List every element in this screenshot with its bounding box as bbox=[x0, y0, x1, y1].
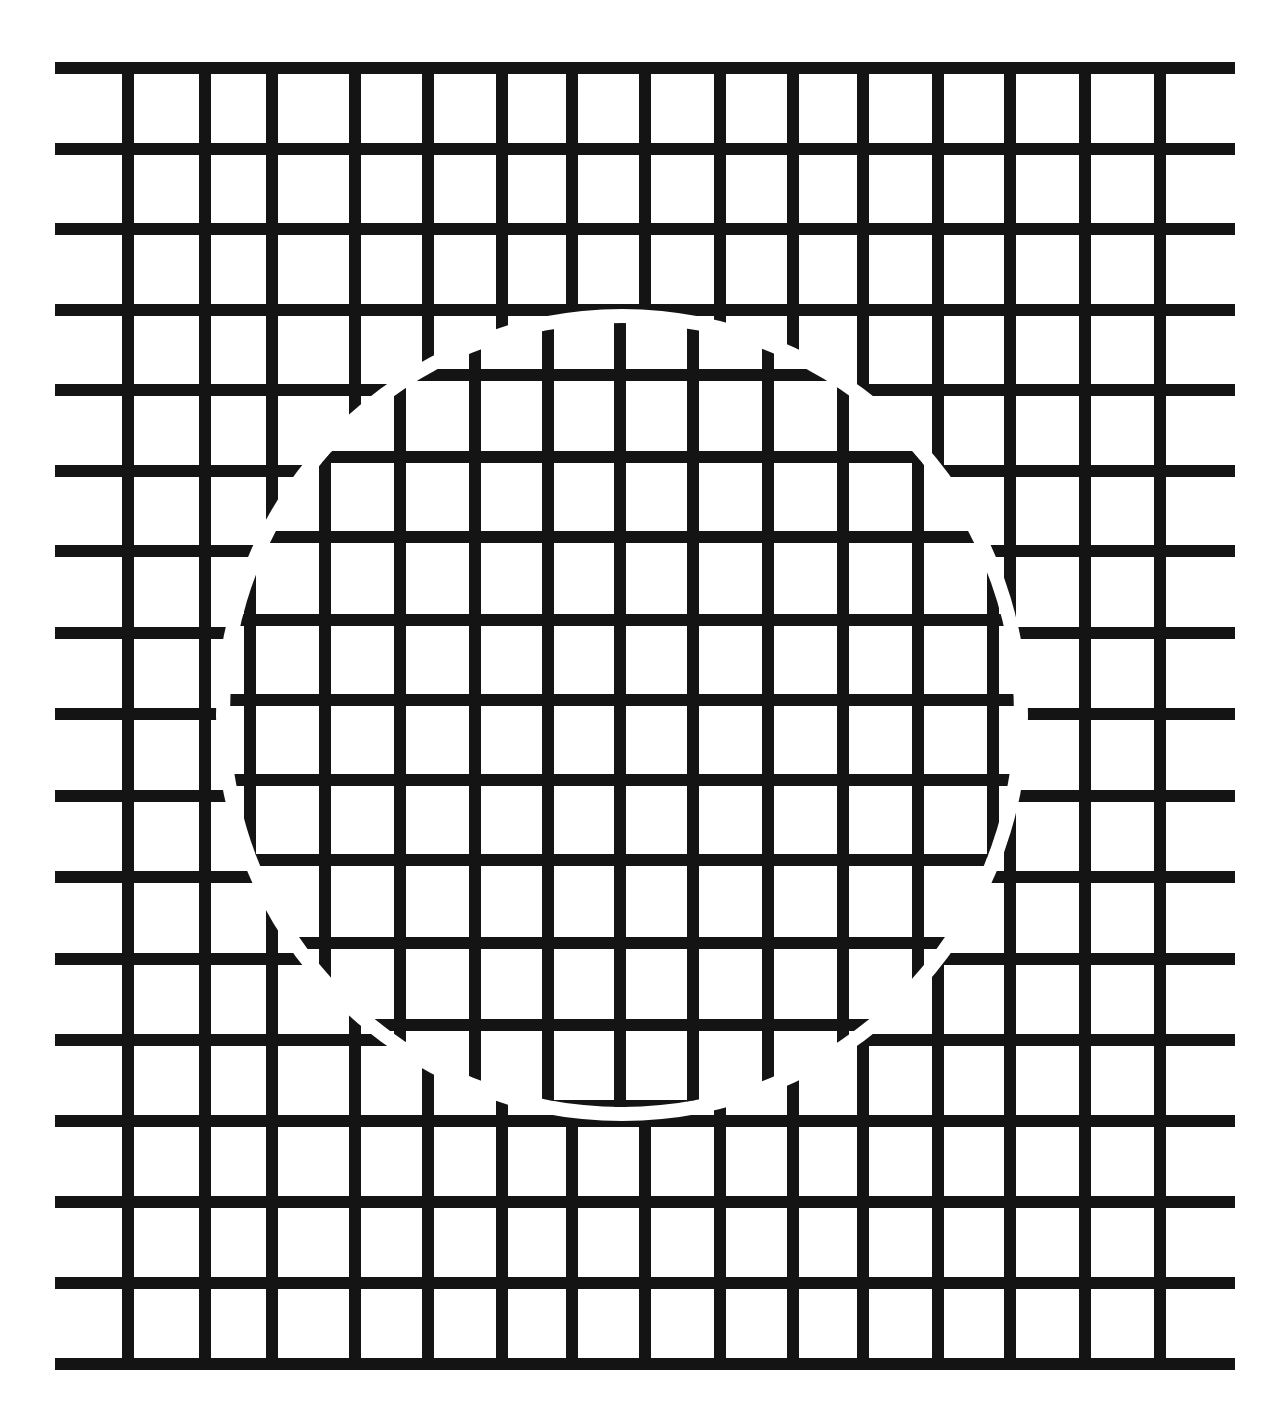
inner-disk-grid bbox=[230, 296, 1014, 1107]
grid-illusion-figure bbox=[0, 0, 1286, 1417]
outer-grid bbox=[55, 68, 1235, 1364]
grid-illusion-svg bbox=[0, 0, 1286, 1417]
